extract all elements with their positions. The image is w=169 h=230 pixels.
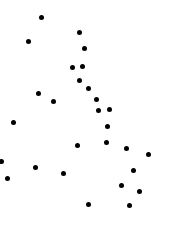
scatter-point: [51, 99, 56, 104]
scatter-point: [86, 86, 91, 91]
scatter-point: [77, 30, 82, 35]
scatter-point: [0, 159, 4, 164]
scatter-point: [96, 108, 101, 113]
scatter-point: [11, 120, 16, 125]
scatter-point: [127, 203, 132, 208]
scatter-point: [61, 171, 66, 176]
scatter-point: [86, 202, 91, 207]
scatter-point: [119, 183, 124, 188]
scatter-point: [82, 46, 87, 51]
scatter-point: [75, 143, 80, 148]
scatter-point: [80, 64, 85, 69]
scatter-point: [77, 78, 82, 83]
scatter-point: [124, 146, 129, 151]
scatter-point: [94, 97, 99, 102]
scatter-point: [104, 140, 109, 145]
scatter-point: [26, 39, 31, 44]
scatter-plot-canvas: [0, 0, 169, 230]
scatter-point: [105, 124, 110, 129]
scatter-point: [146, 152, 151, 157]
scatter-point: [5, 176, 10, 181]
scatter-point: [137, 189, 142, 194]
scatter-point: [70, 65, 75, 70]
scatter-point: [131, 168, 136, 173]
scatter-point: [33, 165, 38, 170]
scatter-point: [39, 15, 44, 20]
scatter-point: [36, 91, 41, 96]
scatter-point: [107, 107, 112, 112]
